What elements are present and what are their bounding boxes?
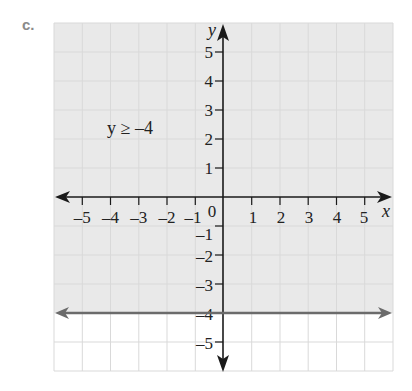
x-tick-label: 5 (360, 208, 369, 227)
y-tick-label: –5 (195, 334, 213, 353)
y-tick-label: –3 (195, 276, 213, 295)
y-tick-label: –1 (195, 225, 213, 244)
x-tick-label: –3 (129, 208, 147, 227)
inequality-graph: –5 –4 –3 –2 –1 1 2 3 4 5 x 0 5 4 3 (0, 0, 412, 391)
y-tick-label: 1 (205, 159, 214, 178)
y-tick-label: 3 (205, 101, 214, 120)
x-tick-label: 4 (333, 208, 342, 227)
x-axis-label: x (381, 201, 390, 221)
y-tick-label: –2 (195, 247, 213, 266)
y-tick-label: –4 (195, 305, 214, 324)
inequality-label: y ≥ –4 (107, 118, 153, 138)
x-tick-label: 1 (249, 208, 258, 227)
origin-label: 0 (208, 202, 217, 221)
y-axis-label: y (206, 20, 216, 40)
x-tick-label: 2 (277, 208, 286, 227)
y-tick-label: 4 (205, 72, 214, 91)
x-tick-label: –4 (101, 208, 120, 227)
x-tick-label: 3 (305, 208, 314, 227)
y-tick-label: 5 (205, 43, 214, 62)
y-tick-label: 2 (205, 130, 214, 149)
x-tick-label: –5 (73, 208, 91, 227)
x-tick-label: –2 (158, 208, 176, 227)
